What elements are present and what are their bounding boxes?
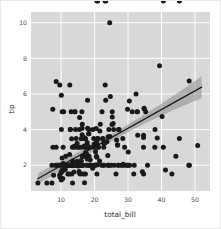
data-point[interactable] (101, 145, 106, 150)
data-point[interactable] (186, 163, 191, 168)
data-point[interactable] (142, 106, 147, 111)
data-point[interactable] (161, 145, 166, 150)
data-point[interactable] (108, 94, 113, 99)
data-point[interactable] (110, 114, 115, 119)
data-point[interactable] (71, 170, 76, 175)
data-point[interactable] (67, 83, 72, 88)
data-point[interactable] (80, 126, 85, 131)
data-point[interactable] (93, 149, 98, 154)
data-point[interactable] (173, 154, 178, 159)
data-point[interactable] (116, 127, 121, 132)
data-point[interactable] (79, 145, 84, 150)
data-point[interactable] (130, 109, 135, 114)
data-point[interactable] (84, 163, 89, 168)
data-point[interactable] (98, 122, 103, 127)
data-point[interactable] (58, 171, 63, 176)
data-point[interactable] (195, 143, 200, 148)
data-point[interactable] (60, 109, 65, 114)
data-point[interactable] (88, 157, 93, 162)
data-point[interactable] (153, 127, 158, 132)
scatter-plot[interactable]: 1020304050 246810 total_bill tip (1, 1, 221, 229)
data-point[interactable] (126, 149, 131, 154)
data-point[interactable] (69, 136, 74, 141)
data-point[interactable] (109, 163, 114, 168)
data-point[interactable] (177, 136, 182, 141)
data-point[interactable] (63, 154, 68, 159)
data-point[interactable] (94, 126, 99, 131)
data-point[interactable] (49, 163, 54, 168)
data-point[interactable] (51, 173, 56, 178)
data-point[interactable] (94, 172, 99, 177)
data-point[interactable] (169, 172, 174, 177)
data-point[interactable] (86, 127, 91, 132)
data-point[interactable] (161, 1, 166, 4)
data-point[interactable] (135, 109, 140, 114)
data-point[interactable] (54, 79, 59, 84)
data-point[interactable] (35, 180, 40, 185)
data-point[interactable] (74, 163, 79, 168)
data-point[interactable] (106, 127, 111, 132)
data-point[interactable] (145, 163, 150, 168)
data-point[interactable] (110, 122, 115, 127)
data-point[interactable] (50, 107, 55, 112)
data-point[interactable] (105, 153, 110, 158)
data-point[interactable] (85, 98, 90, 103)
data-point[interactable] (70, 180, 75, 185)
data-point[interactable] (177, 1, 182, 4)
data-point[interactable] (100, 109, 105, 114)
data-point[interactable] (102, 163, 107, 168)
data-point[interactable] (97, 158, 102, 163)
data-point[interactable] (68, 127, 73, 132)
data-point[interactable] (114, 172, 119, 177)
data-point[interactable] (61, 145, 66, 150)
data-point[interactable] (91, 136, 96, 141)
data-point[interactable] (86, 131, 91, 136)
data-point[interactable] (131, 172, 136, 177)
data-point[interactable] (134, 91, 139, 96)
data-point[interactable] (94, 154, 99, 159)
data-point[interactable] (81, 135, 86, 140)
data-point[interactable] (74, 136, 79, 141)
data-point[interactable] (114, 138, 119, 143)
data-point[interactable] (141, 133, 146, 138)
data-point[interactable] (82, 180, 87, 185)
data-point[interactable] (57, 83, 62, 88)
data-point[interactable] (49, 180, 54, 185)
data-point[interactable] (122, 145, 127, 150)
data-point[interactable] (103, 98, 108, 103)
data-point[interactable] (110, 109, 115, 114)
data-point[interactable] (116, 163, 121, 168)
data-point[interactable] (59, 127, 64, 132)
data-point[interactable] (132, 163, 137, 168)
data-point[interactable] (107, 20, 112, 25)
data-point[interactable] (54, 145, 59, 150)
data-point[interactable] (84, 145, 89, 150)
data-point[interactable] (125, 163, 130, 168)
data-point[interactable] (187, 78, 192, 83)
data-point[interactable] (68, 163, 73, 168)
data-point[interactable] (77, 115, 82, 120)
data-point[interactable] (72, 109, 77, 114)
data-point[interactable] (79, 109, 84, 114)
data-point[interactable] (152, 145, 157, 150)
data-point[interactable] (127, 99, 132, 104)
data-point[interactable] (83, 172, 88, 177)
data-point[interactable] (155, 136, 160, 141)
data-point[interactable] (70, 145, 75, 150)
data-point[interactable] (93, 163, 98, 168)
data-point[interactable] (157, 63, 162, 68)
data-point[interactable] (141, 145, 146, 150)
data-point[interactable] (59, 177, 64, 182)
data-point[interactable] (135, 133, 140, 138)
data-point[interactable] (111, 127, 116, 132)
data-point[interactable] (125, 107, 130, 112)
data-point[interactable] (160, 114, 165, 119)
data-point[interactable] (163, 167, 168, 172)
data-point[interactable] (44, 180, 49, 185)
data-point[interactable] (59, 93, 64, 98)
data-point[interactable] (141, 172, 146, 177)
data-point[interactable] (78, 163, 83, 168)
data-point[interactable] (103, 83, 108, 88)
data-point[interactable] (120, 136, 125, 141)
data-point[interactable] (115, 142, 120, 147)
